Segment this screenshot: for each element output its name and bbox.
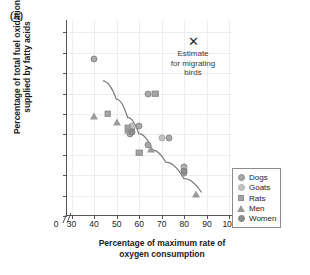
data-point-men [90, 112, 98, 119]
y-tick [63, 73, 67, 74]
data-point-men [147, 145, 155, 152]
data-point-dogs [136, 123, 143, 130]
legend[interactable]: DogsGoatsRatsMenWomen [232, 168, 281, 228]
legend-item-women[interactable]: Women [236, 214, 276, 224]
legend-item-label: Men [249, 204, 265, 213]
data-point-rats [136, 149, 143, 156]
y-tick [63, 175, 67, 176]
legend-item-label: Rats [249, 194, 265, 203]
data-point-men [113, 119, 121, 126]
data-point-men [192, 190, 200, 197]
data-point-rats [152, 90, 159, 97]
legend-marker-icon [236, 215, 246, 222]
legend-item-label: Women [249, 214, 276, 223]
legend-item-rats[interactable]: Rats [236, 193, 276, 203]
trend-line-path [103, 81, 202, 193]
y-axis-title: Percentage of total fuel oxidation suppl… [7, 0, 37, 152]
legend-marker-icon [236, 205, 246, 212]
legend-marker-icon [236, 184, 246, 191]
y-tick [63, 32, 67, 33]
legend-item-label: Goats [249, 183, 270, 192]
y-axis-title-line2: supplied by fatty acids [22, 0, 33, 134]
data-point-goats [158, 135, 165, 142]
x-axis-title-line1: Percentage of maximum rate of [62, 238, 262, 249]
data-point-women [129, 129, 136, 136]
y-tick [63, 196, 67, 197]
y-tick [63, 53, 67, 54]
y-tick [63, 134, 67, 135]
x-axis-title: Percentage of maximum rate of oxygen con… [62, 238, 262, 260]
legend-marker-icon [236, 195, 246, 202]
legend-item-dogs[interactable]: Dogs [236, 172, 276, 182]
legend-item-label: Dogs [249, 173, 268, 182]
axis-break-icon [60, 212, 76, 224]
y-tick [63, 94, 67, 95]
data-point-dogs [145, 90, 152, 97]
legend-item-men[interactable]: Men [236, 204, 276, 214]
data-point-women [181, 168, 188, 175]
y-tick [63, 114, 67, 115]
y-axis-title-line1: Percentage of total fuel oxidation [12, 0, 23, 134]
y-tick [63, 155, 67, 156]
data-point-rats [104, 111, 111, 118]
x-axis-title-line2: oxygen consumption [62, 249, 262, 260]
data-point-dogs [91, 55, 98, 62]
legend-item-goats[interactable]: Goats [236, 183, 276, 193]
legend-marker-icon [236, 174, 246, 181]
data-point-dogs [165, 135, 172, 142]
plot-area: 0102030405060708090304050607080901000 [66, 20, 233, 216]
